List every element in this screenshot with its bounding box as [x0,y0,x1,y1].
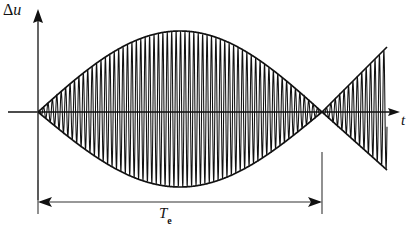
x-axis-label: t [401,112,405,129]
waveform-plot [0,0,419,236]
carrier-waveform [38,31,387,187]
beat-waveform-figure: Δu t Te [0,0,419,236]
beat-period-subscript: e [167,215,171,226]
beat-period-annotation [38,152,322,214]
y-axis-delta-symbol: Δ [3,1,13,18]
y-axis-label: Δu [3,1,21,19]
y-axis-variable: u [13,1,21,18]
beat-period-label: Te [159,205,172,224]
y-axis-arrowhead [33,9,43,23]
carrier-oscillation-group [38,31,387,187]
